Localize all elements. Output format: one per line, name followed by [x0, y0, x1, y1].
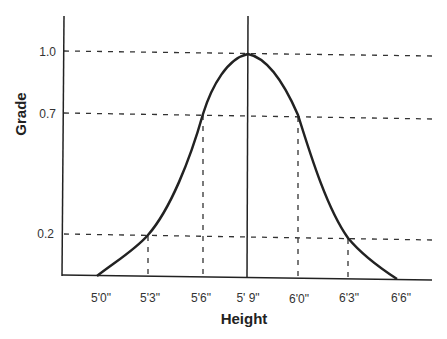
x-tick-label: 5'0"	[91, 291, 111, 305]
y-tick-label: 0.2	[37, 227, 54, 241]
y-tick-label: 0.7	[39, 107, 56, 121]
grade-height-chart: 1.0 0.7 0.2 5'0" 5'3" 5'6" 5' 9" 6'0" 6'…	[0, 0, 447, 339]
x-tick-label: 5' 9"	[236, 291, 259, 305]
y-axis	[62, 16, 64, 276]
x-tick-label: 6'0"	[289, 292, 309, 306]
x-tick-label: 6'6"	[391, 291, 411, 305]
gridline-0-2	[64, 234, 433, 240]
x-axis-title: Height	[221, 310, 268, 327]
x-tick-label: 5'6"	[191, 291, 211, 305]
gridline-0-7	[64, 113, 433, 119]
x-tick-label: 5'3"	[140, 291, 160, 305]
x-tick-label: 6'3"	[339, 291, 359, 305]
y-axis-title: Grade	[12, 92, 29, 135]
y-tick-label: 1.0	[39, 45, 56, 59]
